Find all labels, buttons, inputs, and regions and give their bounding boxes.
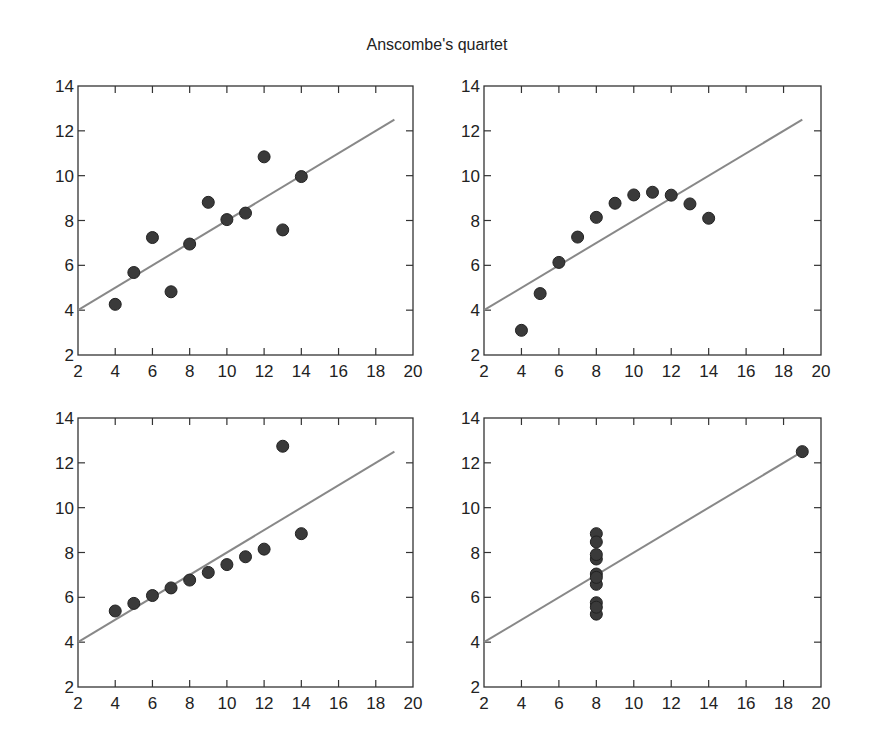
x-tick-label: 10 [624,694,643,713]
y-tick-label: 6 [471,588,480,607]
x-tick-label: 4 [517,694,526,713]
y-tick-label: 14 [461,409,480,428]
y-tick-label: 12 [461,454,480,473]
x-tick-label: 12 [662,694,681,713]
x-tick-label: 20 [812,694,831,713]
x-tick-label: 16 [737,694,756,713]
x-tick-label: 14 [699,694,718,713]
data-point [590,536,602,548]
data-point [590,601,602,613]
y-tick-label: 2 [471,678,480,697]
data-point [590,571,602,583]
scatter-panel-4: 24681012141618202468101214 [0,0,874,755]
x-tick-label: 2 [479,694,488,713]
axes-frame [484,418,821,687]
y-tick-label: 4 [471,633,480,652]
data-point [796,446,808,458]
x-tick-label: 18 [774,694,793,713]
regression-line [484,452,802,643]
x-tick-label: 6 [554,694,563,713]
data-point [590,549,602,561]
y-tick-label: 10 [461,499,480,518]
plot-area: 24681012141618202468101214 [461,409,830,713]
y-tick-label: 8 [471,544,480,563]
x-tick-label: 8 [592,694,601,713]
